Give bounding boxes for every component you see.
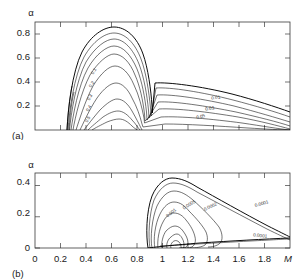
panel-b-xtick-0.6: 0.6: [105, 253, 118, 264]
contour-a-0.1: [76, 66, 290, 130]
panel-b-frame: [35, 173, 290, 248]
clabel-b-0.0001-lower: 0.0001: [253, 232, 268, 239]
clabel-b-0.0005: 0.0005: [182, 199, 197, 211]
panel-b-xtick-1.8: 1.8: [258, 253, 271, 264]
panel-b-xtick-1.2: 1.2: [181, 253, 194, 264]
panel-b: α 0.4 0.2 0: [0, 140, 304, 280]
clabel-b-0.0001-upper: 0.0001: [254, 199, 269, 208]
panel-b-xlabel: M: [284, 253, 292, 264]
figure-contour-plots: α 0.8 0.6 0.4 0.2: [0, 0, 304, 280]
panel-a-ytick-0.8: 0.8: [17, 27, 30, 38]
panel-a-canvas: α 0.8 0.6 0.4 0.2: [0, 0, 304, 140]
panel-b-label: (b): [12, 268, 24, 279]
panel-b-xtick-0: 0: [32, 253, 37, 264]
panel-b-xticklabels: 0 0.2 0.4 0.6 0.8 1 1.2 1.4 1.6 1.8: [32, 253, 271, 264]
clabel-a-0.4: 0.4: [85, 104, 93, 112]
contour-b-outer-lower: [148, 238, 290, 248]
clabel-a-0.3: 0.3: [86, 93, 94, 101]
panel-b-xtick-0.2: 0.2: [54, 253, 67, 264]
panel-b-xticks: [61, 173, 265, 248]
contour-a-outer: [67, 27, 290, 130]
panel-b-xtick-1: 1: [160, 253, 165, 264]
panel-a-ylabel: α: [28, 7, 34, 18]
panel-a: α 0.8 0.6 0.4 0.2: [0, 0, 304, 140]
clabel-a-0.01: 0.01: [211, 94, 221, 100]
panel-b-svg: α 0.4 0.2 0: [0, 140, 304, 280]
panel-a-label: (a): [12, 130, 24, 140]
panel-a-ytick-0.4: 0.4: [17, 75, 30, 86]
panel-a-ytick-0.6: 0.6: [17, 51, 30, 62]
panel-a-xticks: [61, 22, 265, 130]
panel-b-xtick-1.4: 1.4: [207, 253, 220, 264]
clabel-b-0.0002: 0.0002: [203, 201, 218, 212]
panel-b-xtick-0.8: 0.8: [130, 253, 143, 264]
panel-a-svg: α 0.8 0.6 0.4 0.2: [0, 0, 304, 140]
panel-b-xtick-1.6: 1.6: [232, 253, 245, 264]
panel-b-xtick-0.4: 0.4: [79, 253, 92, 264]
panel-b-ytick-0: 0: [25, 242, 30, 253]
clabel-b-0.001: 0.001: [165, 207, 177, 218]
panel-b-ylabel: α: [28, 159, 34, 170]
clabel-a-0.03: 0.03: [205, 105, 215, 112]
contour-a-0.4: [88, 111, 140, 130]
panel-a-contours: [67, 27, 290, 130]
panel-b-ytick-0.4: 0.4: [17, 176, 30, 187]
clabel-a-0.1: 0.1: [90, 67, 98, 75]
contour-a-0.3: [84, 99, 142, 130]
clabel-a-0.2: 0.2: [88, 80, 96, 88]
contour-b-0.001: [158, 213, 196, 248]
panel-a-frame: [35, 22, 290, 130]
panel-b-canvas: α 0.4 0.2 0: [0, 140, 304, 280]
contour-a-5: [73, 54, 290, 130]
panel-b-ytick-0.2: 0.2: [17, 207, 30, 218]
panel-a-ytick-0.2: 0.2: [17, 99, 30, 110]
contour-a-2: [68, 33, 290, 130]
